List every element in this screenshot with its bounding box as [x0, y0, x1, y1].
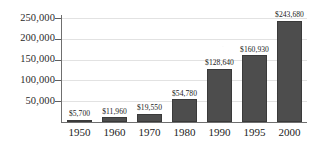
x-axis-tick-label: 1950 [62, 126, 97, 138]
y-axis-tick-label: 50,000 [26, 96, 55, 107]
y-axis-tick-label: 250,000 [20, 13, 55, 24]
bar-group[interactable]: $11,960 [102, 14, 127, 122]
x-axis-tick-label: 1980 [167, 126, 202, 138]
x-axis-tick-label: 1995 [237, 126, 272, 138]
bar-value-label: $160,930 [240, 46, 269, 54]
bar-value-label: $54,780 [172, 90, 197, 98]
bar-group[interactable]: $243,680 [277, 14, 302, 122]
bar[interactable] [242, 55, 267, 122]
x-axis-tick-label: 1970 [132, 126, 167, 138]
plot-area: $5,700$11,960$19,550$54,780$128,640$160,… [62, 14, 308, 122]
bar-group[interactable]: $160,930 [242, 14, 267, 122]
bar-value-label: $243,680 [275, 11, 304, 19]
y-axis-tick-label: 100,000 [20, 75, 55, 86]
x-axis-tick-label: 1990 [202, 126, 237, 138]
bar-group[interactable]: $19,550 [137, 14, 162, 122]
bar-value-label: $128,640 [205, 59, 234, 67]
y-axis-tick-label: 150,000 [20, 54, 55, 65]
bar[interactable] [172, 99, 197, 122]
y-axis-tick-label: 200,000 [20, 33, 55, 44]
bar-value-label: $19,550 [137, 104, 162, 112]
bar-value-label: $5,700 [69, 110, 90, 118]
bar[interactable] [137, 114, 162, 122]
bar-value-label: $11,960 [102, 108, 127, 116]
bar[interactable] [277, 21, 302, 122]
x-axis-tick-label: 2000 [272, 126, 307, 138]
bar-group[interactable]: $5,700 [67, 14, 92, 122]
x-axis-tick-label: 1960 [97, 126, 132, 138]
bar-group[interactable]: $128,640 [207, 14, 232, 122]
bar[interactable] [207, 69, 232, 123]
bar-group[interactable]: $54,780 [172, 14, 197, 122]
bar-chart: 50,000100,000150,000200,000250,000 $5,70… [0, 0, 314, 151]
x-axis-line [61, 122, 307, 123]
